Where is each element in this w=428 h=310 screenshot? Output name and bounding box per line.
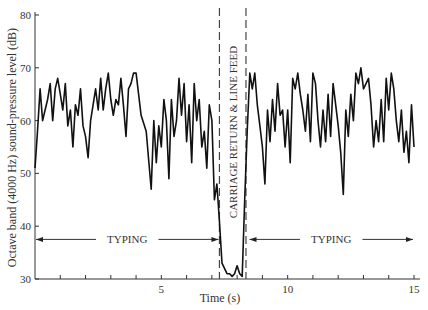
y-tick-label: 60 bbox=[20, 115, 32, 127]
typing-left-label: TYPING bbox=[107, 233, 147, 245]
arrowhead-left-icon bbox=[36, 237, 43, 242]
sound-level-trace bbox=[35, 68, 414, 277]
y-tick-label: 50 bbox=[20, 167, 32, 179]
x-tick-label: 10 bbox=[282, 283, 294, 295]
y-tick-label: 40 bbox=[20, 220, 32, 232]
y-axis-label: Octave band (4000 Hz) sound-pressure lev… bbox=[5, 18, 20, 278]
y-tick-label: 70 bbox=[20, 62, 32, 74]
y-tick-label: 80 bbox=[20, 9, 32, 21]
carriage-return-label: CARRIAGE RETURN & LINE FEED bbox=[227, 46, 239, 218]
x-tick-label: 15 bbox=[409, 283, 421, 295]
arrowhead-left-icon bbox=[250, 237, 257, 242]
typing-right-label: TYPING bbox=[311, 233, 351, 245]
x-tick-label: 5 bbox=[159, 283, 165, 295]
y-tick-label: 30 bbox=[20, 273, 32, 285]
arrowhead-right-icon bbox=[211, 237, 218, 242]
x-axis-label: Time (s) bbox=[190, 291, 250, 306]
chart-canvas: 30405060708051015 TYPINGTYPINGCARRIAGE R… bbox=[0, 0, 428, 310]
arrowhead-right-icon bbox=[406, 237, 413, 242]
